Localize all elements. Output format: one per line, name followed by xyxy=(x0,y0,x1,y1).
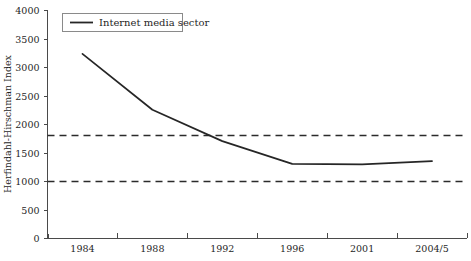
x-axis-ticks xyxy=(49,233,468,238)
reference-lines-group xyxy=(48,136,468,182)
x-tick-label-1992: 1992 xyxy=(210,243,234,254)
x-tick-label-1984: 1984 xyxy=(70,243,94,254)
series-line-0 xyxy=(82,54,432,165)
legend-label: Internet media sector xyxy=(99,17,209,28)
y-tick-label: 0 xyxy=(33,233,39,244)
data-series-group xyxy=(82,54,432,165)
legend: Internet media sector xyxy=(63,14,210,32)
y-tick-label: 1500 xyxy=(15,148,39,159)
x-tick-label-2004-5: 2004/5 xyxy=(415,243,448,254)
y-axis-group: 05001000150020002500300035004000 Herfind… xyxy=(2,5,48,244)
y-axis-title: Herfindahl-Hirschman Index xyxy=(2,54,13,193)
y-tick-label: 3500 xyxy=(15,34,39,45)
y-tick-label: 4000 xyxy=(15,5,39,16)
y-tick-label: 500 xyxy=(21,205,39,216)
y-axis-tick-labels: 05001000150020002500300035004000 xyxy=(15,5,39,244)
line-chart: 05001000150020002500300035004000 Herfind… xyxy=(0,0,471,261)
y-tick-label: 2000 xyxy=(15,119,39,130)
y-axis-ticks xyxy=(44,11,48,239)
x-axis-group: 198419881992199620012004/5 xyxy=(48,233,468,254)
y-tick-label: 1000 xyxy=(15,176,39,187)
x-tick-label-1988: 1988 xyxy=(140,243,164,254)
x-tick-label-1996: 1996 xyxy=(280,243,304,254)
chart-container: 05001000150020002500300035004000 Herfind… xyxy=(0,0,471,261)
y-tick-label: 2500 xyxy=(15,91,39,102)
y-tick-label: 3000 xyxy=(15,62,39,73)
x-tick-label-2001: 2001 xyxy=(350,243,374,254)
x-axis-tick-labels: 198419881992199620012004/5 xyxy=(70,243,448,254)
